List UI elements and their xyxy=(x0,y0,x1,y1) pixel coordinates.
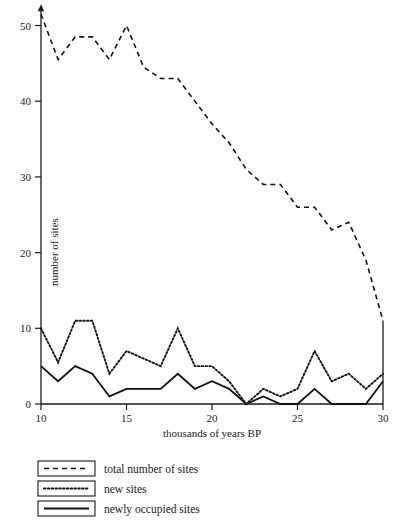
x-tick-label: 25 xyxy=(292,412,304,424)
x-tick-label: 30 xyxy=(378,412,390,424)
y-axis-arrow xyxy=(38,4,44,11)
y-tick-label: 0 xyxy=(26,398,32,410)
chart-figure: 01020304050 1015202530 number of sites t… xyxy=(0,0,409,520)
y-tick-label: 30 xyxy=(20,171,32,183)
legend-label: newly occupied sites xyxy=(104,503,200,516)
legend-item: newly occupied sites xyxy=(38,501,200,516)
series-group xyxy=(41,14,383,404)
y-tick-label: 20 xyxy=(20,247,32,259)
series-new-sites xyxy=(41,321,383,404)
legend-item: new sites xyxy=(38,481,147,496)
x-tick-label: 15 xyxy=(121,412,133,424)
axes-group: 01020304050 1015202530 xyxy=(20,4,389,424)
series-newly-occupied-sites xyxy=(41,366,383,404)
x-tick-label: 10 xyxy=(36,412,48,424)
series-total-number-of-sites xyxy=(41,14,383,321)
legend-label: total number of sites xyxy=(104,463,199,475)
x-axis-title: thousands of years BP xyxy=(163,427,261,439)
y-axis-title: number of sites xyxy=(48,218,60,286)
chart-svg: 01020304050 1015202530 number of sites t… xyxy=(0,0,409,520)
y-tick-label: 50 xyxy=(20,20,32,32)
y-tick-label: 40 xyxy=(20,95,32,107)
legend-item: total number of sites xyxy=(38,461,199,476)
x-tick-label: 20 xyxy=(207,412,219,424)
x-axis-tick-labels: 1015202530 xyxy=(36,412,390,424)
chart-legend: total number of sitesnew sitesnewly occu… xyxy=(38,461,200,516)
y-axis-ticks xyxy=(35,26,41,405)
y-axis-tick-labels: 01020304050 xyxy=(20,20,32,411)
legend-label: new sites xyxy=(104,483,147,495)
y-tick-label: 10 xyxy=(20,322,32,334)
